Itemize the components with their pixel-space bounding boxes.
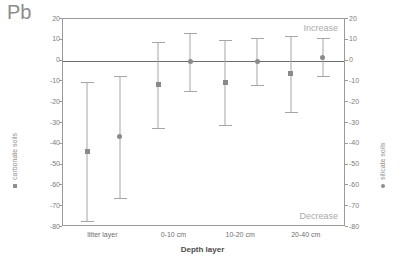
legend-silicate-soils: silicate soils (379, 104, 387, 188)
x-axis-title: Depth layer (0, 245, 405, 254)
y-axis-right-tick-label: -10 (349, 77, 359, 84)
y-axis-right-tick-label: -40 (349, 139, 359, 146)
y-axis-right-tick-mark (345, 143, 348, 144)
error-bar-cap-lower (184, 91, 197, 92)
x-axis-category-label: 0-10 cm (161, 231, 186, 239)
y-axis-right-tick-mark (345, 101, 348, 102)
y-axis-left-tick-mark (59, 18, 62, 19)
y-axis-left-tick-mark (59, 80, 62, 81)
x-axis-category-label: 10-20 cm (226, 231, 255, 239)
y-axis-right-tick-label: -70 (349, 202, 359, 209)
y-axis-right-tick-label: -60 (349, 181, 359, 188)
zero-reference-line (63, 61, 344, 62)
x-axis-category-label: litter layer (87, 231, 117, 239)
y-axis-left-tick-mark (59, 226, 62, 227)
y-axis-right-tick-mark (345, 164, 348, 165)
error-bar-cap-lower (114, 198, 127, 199)
square-marker-icon (13, 184, 17, 188)
error-bar-cap-lower (285, 112, 298, 113)
error-bar-cap-upper (152, 42, 165, 43)
data-point-marker-square (288, 71, 293, 76)
y-axis-right-tick-label: 10 (349, 35, 357, 42)
y-axis-right-tick-label: 20 (349, 15, 357, 22)
data-point-marker-circle (255, 59, 260, 64)
y-axis-left-tick-mark (59, 39, 62, 40)
legend-label-silicate: silicate soils (379, 143, 387, 180)
error-bar-cap-upper (184, 33, 197, 34)
y-axis-left-tick-mark (59, 101, 62, 102)
error-bar-cap-upper (285, 36, 298, 37)
y-axis-right-tick-mark (345, 205, 348, 206)
x-axis-category-label: 20-40 cm (291, 231, 320, 239)
y-axis-left-tick-mark (59, 60, 62, 61)
data-point-marker-square (85, 149, 90, 154)
plot-area: Increase Decrease (62, 18, 345, 226)
y-axis-right-tick-mark (345, 226, 348, 227)
y-axis-right-tick-mark (345, 122, 348, 123)
legend-carbonate-soils: carbonate soils (11, 104, 19, 188)
error-bar-cap-lower (251, 85, 264, 86)
error-bar-cap-upper (251, 38, 264, 39)
y-axis-left-tick-mark (59, 164, 62, 165)
y-axis-left-tick-mark (59, 143, 62, 144)
y-axis-right-tick-label: -30 (349, 119, 359, 126)
error-bar-cap-lower (219, 125, 232, 126)
error-bar-cap-upper (219, 40, 232, 41)
y-axis-right-tick-mark (345, 184, 348, 185)
error-bar-cap-upper (114, 76, 127, 77)
legend-label-carbonate: carbonate soils (11, 133, 19, 180)
y-axis-left-tick-mark (59, 122, 62, 123)
error-bar-cap-lower (152, 128, 165, 129)
y-axis-right-tick-mark (345, 60, 348, 61)
y-axis-left-tick-mark (59, 205, 62, 206)
error-bar-cap-lower (81, 221, 94, 222)
y-axis-right-tick-mark (345, 18, 348, 19)
data-point-marker-circle (320, 55, 325, 60)
y-axis-right-tick-label: -50 (349, 160, 359, 167)
data-point-marker-circle (188, 59, 193, 64)
error-bar-cap-upper (81, 82, 94, 83)
annotation-decrease: Decrease (299, 211, 338, 221)
y-axis-right-tick-label: -20 (349, 98, 359, 105)
y-axis-right-tick-mark (345, 39, 348, 40)
y-axis-right-tick-label: -80 (349, 223, 359, 230)
annotation-increase: Increase (303, 23, 338, 33)
y-axis-right-tick-mark (345, 80, 348, 81)
data-point-marker-circle (117, 134, 122, 139)
error-bar-cap-lower (317, 76, 330, 77)
error-bar-cap-upper (317, 38, 330, 39)
y-axis-left-tick-mark (59, 184, 62, 185)
data-point-marker-square (156, 82, 161, 87)
chart-figure: Pb carbonate soils silicate soils Increa… (0, 0, 405, 262)
data-point-marker-square (223, 80, 228, 85)
y-axis-right-tick-label: 0 (349, 56, 353, 63)
circle-marker-icon (381, 184, 385, 188)
chart-title-element-symbol: Pb (7, 2, 31, 23)
